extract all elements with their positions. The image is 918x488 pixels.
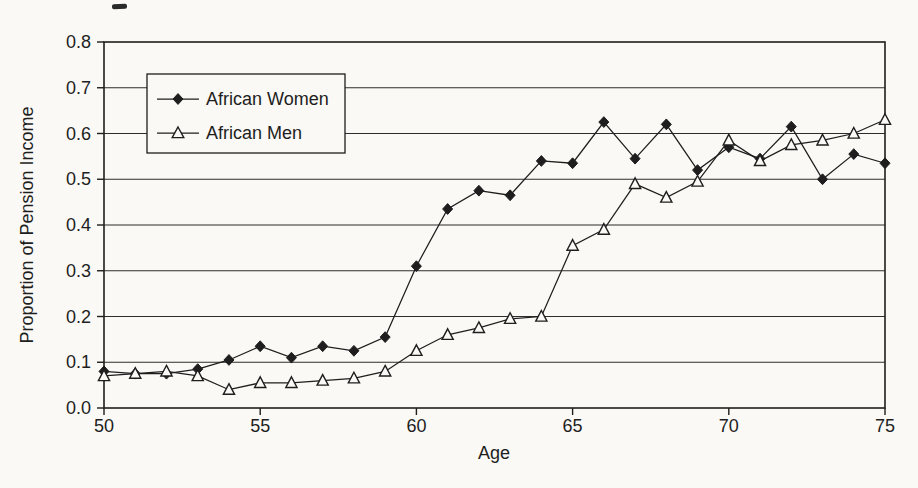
- x-tick-label-55: 55: [250, 416, 270, 436]
- data-point-african-women-age-75: [880, 158, 890, 169]
- data-point-african-women-age-61: [443, 204, 453, 215]
- y-tick-label-0.4: 0.4: [66, 215, 91, 235]
- y-tick-label-0.3: 0.3: [66, 261, 91, 281]
- y-axis-title: Proportion of Pension Income: [17, 106, 37, 343]
- data-point-african-men-age-68: [661, 192, 672, 203]
- x-axis-tick-labels: 505560657075: [94, 416, 895, 436]
- series-line-african-men: [104, 120, 885, 390]
- data-point-african-women-age-57: [318, 341, 328, 352]
- data-point-african-women-age-56: [286, 352, 296, 363]
- legend-label-african-women: African Women: [206, 89, 329, 109]
- data-point-african-men-age-65: [567, 240, 578, 251]
- data-point-african-men-age-64: [536, 311, 547, 322]
- data-point-african-men-age-52: [161, 365, 172, 376]
- y-tick-label-0.5: 0.5: [66, 169, 91, 189]
- data-point-african-men-age-60: [411, 345, 422, 356]
- pension-income-line-chart: 0.00.10.20.30.40.50.60.70.8 505560657075…: [0, 0, 918, 488]
- series-line-african-women: [104, 122, 885, 374]
- data-point-african-men-age-74: [848, 128, 859, 139]
- data-point-african-women-age-62: [474, 185, 484, 196]
- y-axis-tick-labels: 0.00.10.20.30.40.50.60.70.8: [66, 32, 91, 418]
- y-tick-label-0.1: 0.1: [66, 352, 91, 372]
- data-point-african-women-age-55: [255, 341, 265, 352]
- x-tick-label-75: 75: [875, 416, 895, 436]
- scanned-figure-page: 0.00.10.20.30.40.50.60.70.8 505560657075…: [0, 0, 918, 488]
- data-point-african-women-age-69: [693, 165, 703, 176]
- y-tick-label-0.6: 0.6: [66, 124, 91, 144]
- x-tick-label-65: 65: [563, 416, 583, 436]
- data-point-african-men-age-75: [879, 114, 890, 125]
- series-african-men: [98, 114, 890, 395]
- y-tick-label-0.7: 0.7: [66, 78, 91, 98]
- y-tick-label-0.0: 0.0: [66, 398, 91, 418]
- series-african-women: [99, 117, 890, 379]
- scan-artifact-mark: [112, 4, 127, 10]
- data-point-african-men-age-70: [723, 134, 734, 145]
- data-series-layer: [98, 114, 890, 395]
- data-point-african-women-age-74: [849, 149, 859, 160]
- legend-label-african-men: African Men: [206, 123, 302, 143]
- data-point-african-women-age-73: [818, 174, 828, 185]
- x-axis-title: Age: [478, 443, 510, 463]
- data-point-african-men-age-59: [380, 365, 391, 376]
- y-tick-label-0.8: 0.8: [66, 32, 91, 52]
- data-point-african-women-age-54: [224, 355, 234, 366]
- x-tick-label-60: 60: [406, 416, 426, 436]
- y-tick-label-0.2: 0.2: [66, 307, 91, 327]
- x-tick-label-50: 50: [94, 416, 114, 436]
- data-point-african-women-age-58: [349, 345, 359, 356]
- x-tick-label-70: 70: [719, 416, 739, 436]
- data-point-african-women-age-60: [411, 261, 421, 272]
- legend: African Women African Men: [147, 74, 345, 153]
- data-point-african-men-age-55: [255, 377, 266, 388]
- data-point-african-women-age-59: [380, 332, 390, 343]
